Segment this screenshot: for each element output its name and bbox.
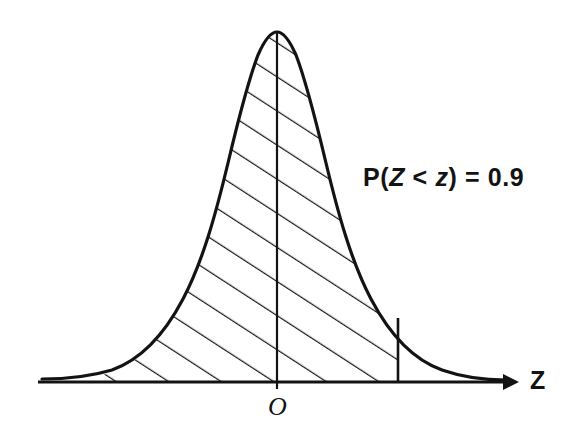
hatch-fill [30, 25, 430, 385]
normal-distribution-chart [0, 0, 580, 444]
axis-arrowhead-icon [503, 374, 519, 390]
probability-annotation: P(Z < z) = 0.9 [363, 163, 524, 192]
probability-prefix: P( [363, 163, 389, 191]
shaded-probability-region [30, 25, 430, 385]
probability-variable-lower: z [435, 163, 448, 191]
probability-relation: < [405, 163, 435, 191]
figure-canvas: P(Z < z) = 0.9 Z O [0, 0, 580, 444]
probability-variable-upper: Z [389, 163, 405, 191]
origin-label: O [268, 392, 287, 422]
probability-suffix: ) = 0.9 [448, 163, 524, 191]
axis-label-z: Z [530, 366, 545, 395]
